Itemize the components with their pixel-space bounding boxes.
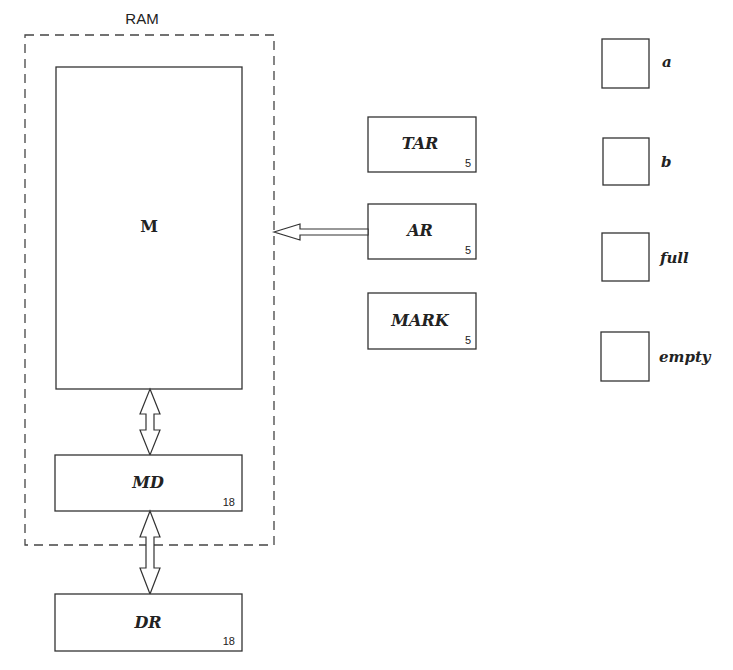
memory-block: M (56, 67, 242, 389)
memory-md-bidirectional-arrow-icon (140, 389, 160, 455)
md-register: MD 18 (55, 455, 242, 511)
flag-b-label: b (661, 153, 672, 171)
memory-label: M (140, 217, 158, 236)
flag-a-label: a (662, 53, 672, 71)
tar-register: TAR 5 (368, 117, 476, 172)
flag-a: a (602, 39, 672, 88)
flag-full-label: full (659, 249, 689, 267)
ar-label: AR (405, 221, 433, 240)
flag-b-box (603, 138, 649, 185)
diagram-canvas: RAM M MD 18 DR 18 TAR 5 AR 5 (0, 0, 733, 670)
flag-empty-label: empty (659, 348, 712, 366)
mark-register: MARK 5 (368, 293, 476, 349)
dr-label: DR (133, 613, 161, 632)
ar-to-ram-arrow-icon (274, 224, 368, 240)
flag-a-box (602, 39, 649, 88)
mark-width: 5 (465, 334, 471, 346)
dr-register: DR 18 (55, 594, 242, 651)
flag-full-box (602, 233, 649, 281)
dr-width: 18 (223, 635, 235, 647)
ram-unit: RAM M MD 18 (25, 10, 274, 545)
tar-label: TAR (402, 134, 439, 153)
flag-b: b (603, 138, 672, 185)
flag-empty: empty (601, 332, 712, 381)
ar-register: AR 5 (368, 204, 476, 259)
flag-empty-box (601, 332, 649, 381)
flag-full: full (602, 233, 689, 281)
ram-title: RAM (125, 10, 158, 27)
md-dr-bidirectional-arrow-icon (140, 511, 160, 594)
mark-label: MARK (390, 311, 449, 330)
tar-width: 5 (465, 157, 471, 169)
ar-width: 5 (465, 244, 471, 256)
md-width: 18 (223, 496, 235, 508)
md-label: MD (131, 473, 164, 492)
